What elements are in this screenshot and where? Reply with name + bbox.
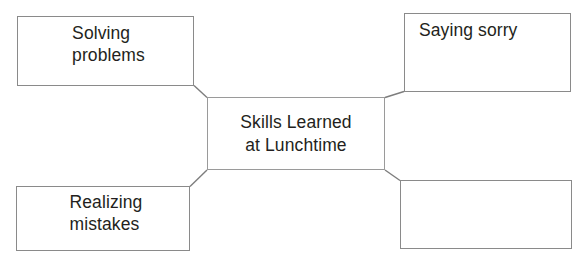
connector-center-to-solving-problems [194,86,207,98]
connector-center-to-realizing-mistakes [190,170,207,187]
node-blank-answer-label [401,181,571,182]
node-blank-answer-box[interactable] [400,180,572,249]
node-realizing-mistakes[interactable]: Realizing mistakes [16,186,190,251]
node-solving-problems-label: Solving problems [66,22,145,67]
concept-map-diagram: Solving problems Saying sorry Skills Lea… [0,0,588,266]
connector-center-to-blank [385,170,400,181]
node-realizing-mistakes-label: Realizing mistakes [64,191,143,236]
node-center-topic[interactable]: Skills Learned at Lunchtime [207,97,385,170]
node-center-topic-label: Skills Learned at Lunchtime [240,111,351,156]
node-saying-sorry-label: Saying sorry [419,19,517,41]
connector-center-to-saying-sorry [385,92,404,98]
node-saying-sorry[interactable]: Saying sorry [404,13,571,92]
node-solving-problems[interactable]: Solving problems [17,16,194,86]
